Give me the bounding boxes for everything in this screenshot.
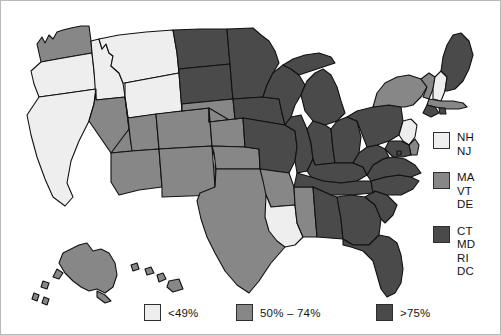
range-legend: <49% 50% – 74% >75% [1, 304, 501, 328]
legend-swatch-mid [433, 172, 450, 189]
choropleth-map-figure: NH NJ MA VT DE CT MD RI DC <49 [0, 0, 501, 335]
state-FL[interactable] [343, 235, 403, 297]
state-DC[interactable] [397, 151, 401, 155]
state-AK[interactable] [32, 243, 117, 305]
legend-state-vt: VT [457, 185, 475, 199]
range-swatch-low [144, 304, 161, 321]
legend-state-list-low: NH NJ [457, 131, 474, 158]
legend-state-ri: RI [457, 252, 475, 266]
legend-state-ma: MA [457, 171, 475, 185]
state-CO[interactable] [156, 108, 212, 149]
state-NY[interactable] [373, 75, 427, 107]
state-CA[interactable] [27, 89, 96, 206]
state-MI[interactable] [301, 69, 345, 125]
legend-swatch-low [433, 132, 450, 149]
legend-state-nj: NJ [457, 145, 474, 159]
range-legend-item-mid: 50% – 74% [236, 304, 321, 321]
us-map [1, 1, 501, 335]
range-label-high: >75% [400, 307, 431, 319]
range-legend-item-low: <49% [144, 304, 199, 321]
range-label-low: <49% [168, 307, 199, 319]
legend-state-md: MD [457, 238, 475, 252]
map-states [27, 26, 473, 305]
state-NM[interactable] [159, 146, 216, 197]
state-AZ[interactable] [111, 149, 162, 195]
legend-group-low: NH NJ [433, 131, 499, 158]
legend-state-dc: DC [457, 265, 475, 279]
state-HI[interactable] [131, 263, 183, 292]
legend-group-mid: MA VT DE [433, 171, 499, 212]
legend-state-nh: NH [457, 131, 474, 145]
legend-swatch-high [433, 226, 450, 243]
legend-state-list-mid: MA VT DE [457, 171, 475, 212]
legend-group-high: CT MD RI DC [433, 225, 499, 279]
range-legend-item-high: >75% [376, 304, 431, 321]
range-swatch-high [376, 304, 393, 321]
legend-state-list-high: CT MD RI DC [457, 225, 475, 279]
small-states-legend: NH NJ MA VT DE CT MD RI DC [433, 131, 499, 292]
legend-state-de: DE [457, 198, 475, 212]
range-label-mid: 50% – 74% [260, 307, 321, 319]
state-RI[interactable] [439, 108, 446, 114]
state-ME[interactable] [441, 33, 473, 91]
legend-state-ct: CT [457, 225, 475, 239]
range-swatch-mid [236, 304, 253, 321]
